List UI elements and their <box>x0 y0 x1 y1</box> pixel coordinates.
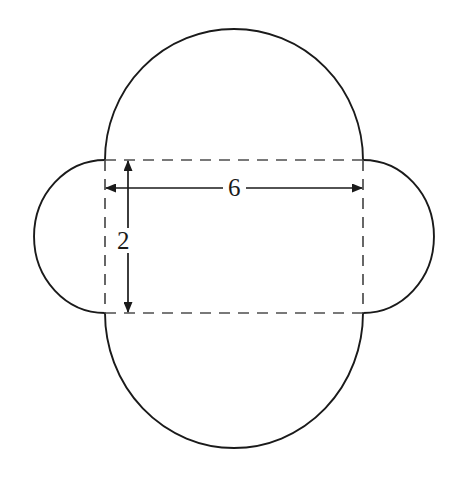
quatrefoil-outline <box>34 29 434 448</box>
right-semicircle-arc <box>363 160 434 313</box>
geometry-canvas <box>0 0 454 477</box>
bottom-semicircle-arc <box>105 313 363 448</box>
height-dimension-label: 2 <box>112 228 135 253</box>
geometry-figure: 6 2 <box>0 0 454 477</box>
left-semicircle-arc <box>34 160 105 313</box>
width-dimension-label: 6 <box>223 175 246 200</box>
top-semicircle-arc <box>105 29 363 160</box>
